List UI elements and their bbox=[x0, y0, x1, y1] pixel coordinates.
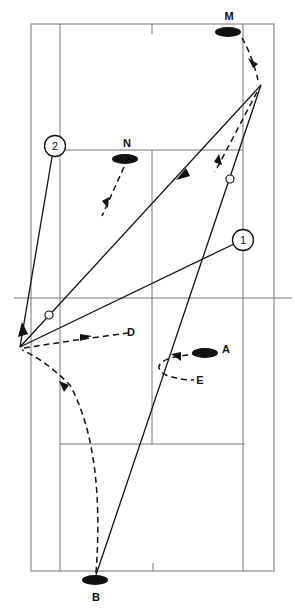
marker-2: 2 bbox=[45, 136, 66, 157]
player-A: A bbox=[192, 343, 230, 358]
impact-point bbox=[226, 175, 234, 183]
marker-1: 1 bbox=[233, 230, 254, 251]
movement-arrowheads bbox=[59, 58, 258, 392]
player-B-label: B bbox=[92, 591, 100, 603]
marker-1-label: 1 bbox=[240, 234, 246, 246]
point-D-label: D bbox=[127, 326, 135, 338]
impact-point bbox=[45, 311, 53, 319]
player-B: B bbox=[82, 575, 108, 603]
arrowheads bbox=[18, 168, 190, 337]
badminton-court-diagram: 2 1 M N A B D E bbox=[0, 0, 295, 613]
player-A-label: A bbox=[222, 343, 230, 355]
player-M-label: M bbox=[224, 10, 233, 22]
marker-2-label: 2 bbox=[52, 140, 58, 152]
shot-lines bbox=[20, 85, 261, 575]
player-N-label: N bbox=[123, 137, 131, 149]
point-E-label: E bbox=[196, 374, 203, 386]
